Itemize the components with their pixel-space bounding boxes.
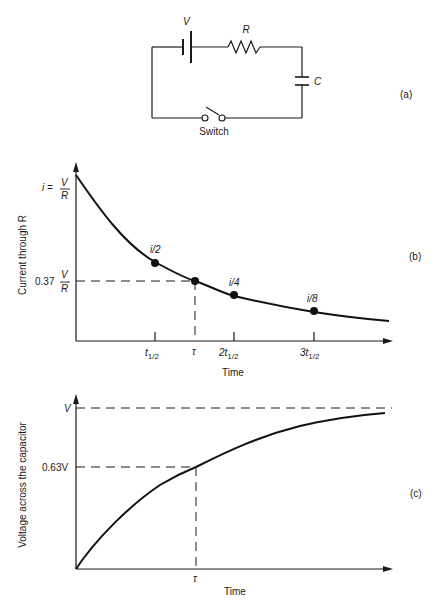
data-point-quarter	[230, 291, 238, 299]
data-point-eighth	[310, 307, 318, 315]
battery-label: V	[183, 16, 191, 27]
point-label-eighth: i/8	[307, 293, 318, 304]
y-label-i-den: R	[61, 190, 68, 201]
resistor-icon	[228, 41, 260, 53]
current-decay-chart: i/2 i/4 i/8 i = V R 0.37 V R Current thr…	[17, 162, 421, 378]
voltage-charge-chart: V 0.63V Voltage across the capacitor τ T…	[17, 394, 422, 597]
x-tick-tau: τ	[192, 346, 197, 357]
y-label-037-num: V	[61, 269, 69, 280]
x-tick-2t-half: 2t1/2	[218, 347, 239, 361]
panel-label-a: (a)	[400, 89, 412, 100]
panel-label-c: (c)	[410, 488, 422, 499]
x-axis-arrow-icon	[383, 566, 393, 572]
x-axis-arrow-icon	[383, 338, 393, 344]
y-axis-title: Current through R	[17, 215, 28, 295]
y-label-037: 0.37	[35, 276, 55, 287]
y-axis-arrow-icon	[73, 162, 79, 172]
y-label-063v: 0.63V	[42, 462, 68, 473]
y-axis-arrow-icon	[73, 394, 79, 404]
voltage-curve	[76, 413, 385, 569]
capacitor-icon	[295, 77, 309, 85]
data-point-half	[151, 259, 159, 267]
switch-icon	[202, 107, 225, 121]
y-label-i: i =	[42, 182, 53, 193]
y-label-v: V	[64, 403, 72, 414]
point-label-quarter: i/4	[229, 277, 240, 288]
panel-label-b: (b)	[409, 251, 421, 262]
y-label-037-den: R	[61, 283, 68, 294]
x-axis-title: Time	[222, 367, 244, 378]
y-axis-title: Voltage across the capacitor	[17, 422, 28, 548]
point-label-half: i/2	[150, 244, 161, 255]
x-tick-3t-half: 3t1/2	[300, 347, 320, 361]
resistor-label: R	[242, 24, 249, 35]
battery-icon	[183, 31, 191, 63]
rc-circuit: V R C Switch (a)	[152, 16, 412, 137]
x-tick-t-half: t1/2	[145, 347, 159, 361]
data-point-tau	[191, 277, 199, 285]
figure-canvas: V R C Switch (a) i/2 i/4 i/8 i = V R	[0, 0, 440, 604]
x-axis-title: Time	[224, 586, 246, 597]
y-label-i-num: V	[61, 177, 69, 188]
current-curve	[76, 175, 389, 321]
switch-label: Switch	[199, 126, 228, 137]
x-tick-tau: τ	[193, 573, 198, 584]
capacitor-label: C	[314, 76, 322, 87]
